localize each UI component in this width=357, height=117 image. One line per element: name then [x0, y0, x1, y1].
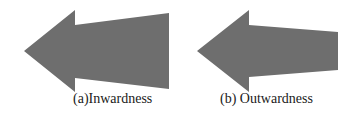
caption-outwardness: (b) Outwardness [220, 91, 313, 107]
inwardness-arrow-icon [24, 10, 169, 92]
caption-inwardness: (a)Inwardness [73, 91, 152, 107]
outwardness-arrow-icon [197, 10, 338, 92]
